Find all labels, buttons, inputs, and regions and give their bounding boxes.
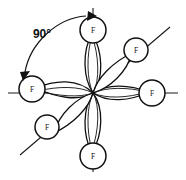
atom-upper-right: F (124, 38, 148, 62)
atom-top: F (80, 17, 106, 43)
orbital-diagram-figure: F F F F F F (0, 0, 186, 180)
atom-label-upper-right: F (134, 46, 138, 55)
bond-angle-label: 90° (33, 27, 51, 41)
bond-angle-arc (25, 16, 86, 72)
atom-label-top: F (91, 26, 95, 35)
atom-label-bottom: F (91, 152, 95, 161)
atom-lower-left: F (35, 115, 59, 139)
atom-label-left: F (30, 85, 34, 94)
atom-bottom: F (80, 143, 106, 169)
orbital-diagram-canvas: F F F F F F (0, 0, 186, 180)
atom-right: F (139, 80, 165, 106)
atom-label-right: F (150, 89, 154, 98)
atom-label-lower-left: F (45, 123, 49, 132)
